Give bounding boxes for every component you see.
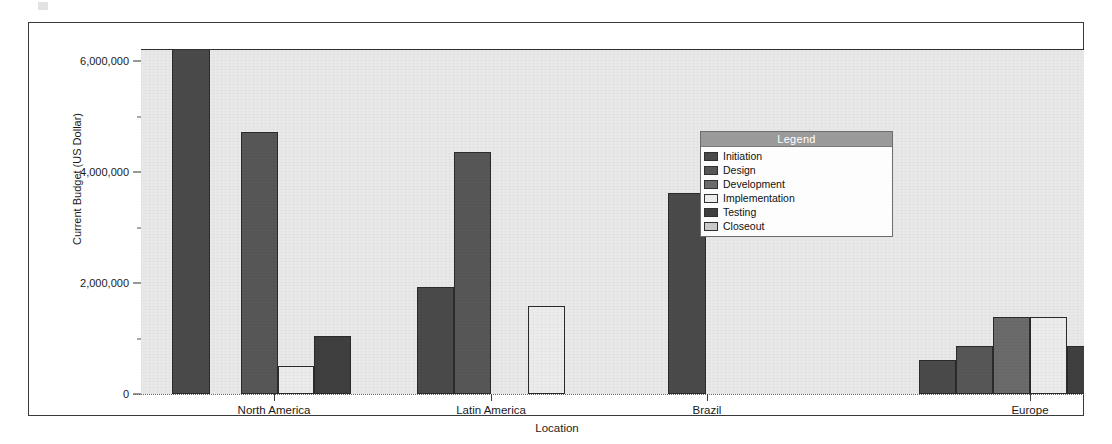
- scan-artifact: [38, 2, 48, 10]
- bar-latin-america-initiation[interactable]: [417, 287, 454, 394]
- legend-item-label: Closeout: [723, 221, 764, 231]
- legend-item-testing[interactable]: Testing: [704, 205, 889, 219]
- legend-swatch-icon: [704, 222, 718, 231]
- bar-latin-america-implementation[interactable]: [528, 306, 565, 394]
- legend-swatch-icon: [704, 180, 718, 189]
- bar-north-america-testing[interactable]: [314, 336, 351, 394]
- chart-frame: Current Budget (US Dollar) 02,000,0004,0…: [28, 22, 1084, 416]
- y-tick-mark: [133, 283, 141, 284]
- x-tick-mark: [1030, 394, 1031, 401]
- legend-item-development[interactable]: Development: [704, 177, 889, 191]
- legend-item-label: Implementation: [723, 193, 795, 203]
- y-tick-mark: [133, 61, 141, 62]
- x-category-label: Brazil: [693, 404, 722, 416]
- legend-item-label: Initiation: [723, 151, 762, 161]
- x-category-label: North America: [238, 404, 311, 416]
- legend-swatch-icon: [704, 166, 718, 175]
- bar-europe-initiation[interactable]: [919, 360, 956, 394]
- chart-screenshot: Current Budget (US Dollar) 02,000,0004,0…: [0, 0, 1112, 444]
- legend-item-label: Development: [723, 179, 785, 189]
- bar-europe-testing[interactable]: [1067, 346, 1084, 394]
- legend-item-label: Testing: [723, 207, 756, 217]
- legend-item-implementation[interactable]: Implementation: [704, 191, 889, 205]
- y-tick-label: 6,000,000: [80, 55, 129, 67]
- y-tick-mark: [133, 172, 141, 173]
- x-tick-mark: [491, 394, 492, 401]
- bar-europe-design[interactable]: [956, 346, 993, 394]
- x-category-label: Europe: [1011, 404, 1048, 416]
- x-tick-mark: [274, 394, 275, 401]
- plot-area: [141, 50, 1084, 394]
- y-tick-label: 0: [123, 388, 129, 400]
- x-axis-title: Location: [29, 422, 1085, 434]
- bar-north-america-design[interactable]: [241, 132, 278, 394]
- y-tick-label: 2,000,000: [80, 277, 129, 289]
- bar-north-america-implementation[interactable]: [278, 366, 314, 394]
- legend-swatch-icon: [704, 152, 718, 161]
- x-axis-baseline: [133, 394, 1084, 395]
- x-category-label: Latin America: [456, 404, 526, 416]
- legend-item-initiation[interactable]: Initiation: [704, 149, 889, 163]
- x-tick-mark: [707, 394, 708, 401]
- legend-items: InitiationDesignDevelopmentImplementatio…: [701, 147, 892, 236]
- y-axis-title: Current Budget (US Dollar): [71, 69, 83, 289]
- legend-swatch-icon: [704, 194, 718, 203]
- legend[interactable]: Legend InitiationDesignDevelopmentImplem…: [700, 131, 893, 237]
- bar-europe-development[interactable]: [993, 317, 1030, 394]
- bar-europe-implementation[interactable]: [1030, 317, 1067, 394]
- legend-item-closeout[interactable]: Closeout: [704, 219, 889, 233]
- legend-title: Legend: [701, 132, 892, 147]
- legend-swatch-icon: [704, 208, 718, 217]
- legend-item-label: Design: [723, 165, 756, 175]
- y-tick-label: 4,000,000: [80, 166, 129, 178]
- legend-item-design[interactable]: Design: [704, 163, 889, 177]
- bar-north-america-initiation[interactable]: [172, 50, 210, 394]
- bar-latin-america-design[interactable]: [454, 152, 491, 394]
